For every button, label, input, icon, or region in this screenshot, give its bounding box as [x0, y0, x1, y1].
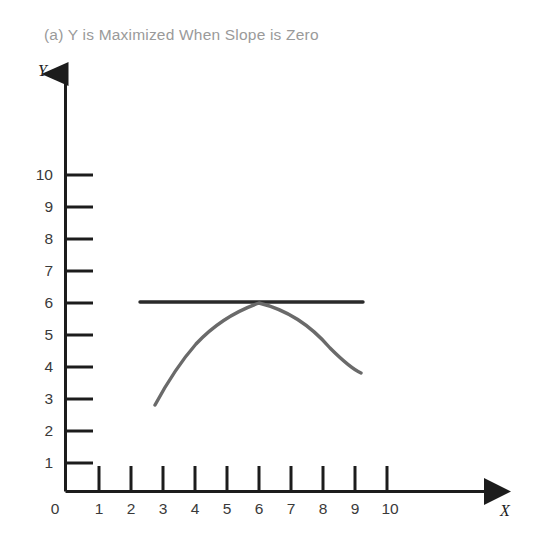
y-tick-label: 3	[44, 390, 53, 408]
x-axis-label: X	[500, 502, 510, 520]
x-tick-label: 3	[159, 500, 168, 518]
x-tick-label: 9	[351, 500, 360, 518]
x-tick-label: 0	[51, 500, 60, 518]
y-axis-label: Y	[38, 62, 47, 80]
y-tick-label: 4	[44, 358, 53, 376]
x-tick-label: 1	[95, 500, 104, 518]
x-tick-label: 4	[191, 500, 200, 518]
x-tick-label: 6	[255, 500, 264, 518]
x-tick-label: 10	[381, 500, 398, 518]
y-tick-label: 6	[44, 294, 53, 312]
y-tick-label: 7	[44, 262, 53, 280]
y-tick-label: 1	[44, 454, 53, 472]
total-product-curve-series	[155, 303, 361, 405]
x-tick-marks	[99, 466, 387, 491]
y-tick-label: 10	[36, 166, 53, 184]
x-tick-label: 8	[319, 500, 328, 518]
y-tick-label: 5	[44, 326, 53, 344]
y-tick-label: 9	[44, 198, 53, 216]
x-tick-label: 7	[287, 500, 296, 518]
y-tick-label: 2	[44, 422, 53, 440]
x-tick-label: 5	[223, 500, 232, 518]
chart-figure: (a) Y is Maximized When Slope is Zero	[0, 0, 559, 542]
x-tick-label: 2	[127, 500, 136, 518]
y-tick-marks	[65, 175, 93, 463]
chart-canvas	[0, 0, 559, 542]
y-tick-label: 8	[44, 230, 53, 248]
